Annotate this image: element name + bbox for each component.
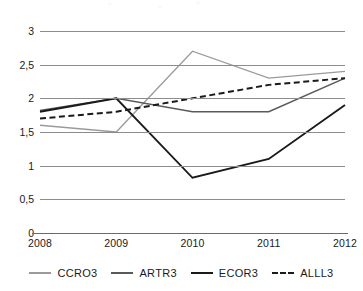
y-axis-tick-label: 2,5 (4, 60, 34, 70)
legend-swatch-solid-line-icon (29, 272, 51, 274)
legend-label: CCRO3 (57, 267, 97, 279)
gridline (40, 31, 345, 32)
chart-legend: CCRO3ARTR3ECOR3ALLL3 (0, 262, 363, 284)
legend-item-artr3[interactable]: ARTR3 (111, 267, 176, 279)
line-chart: 00,511,522,53 20082009201020112012 CCRO3… (0, 0, 363, 291)
x-axis: 20082009201020112012 (40, 237, 345, 253)
legend-swatch-dashed-line-icon (272, 272, 294, 274)
series-line-ccro3 (40, 51, 345, 132)
gridline (40, 65, 345, 66)
y-axis-tick-label: 1 (4, 161, 34, 171)
legend-swatch-solid-line-icon (191, 272, 213, 274)
x-axis-tick-label: 2012 (315, 237, 363, 249)
gridline (40, 98, 345, 99)
scan-artifact (0, 0, 363, 14)
x-axis-tick-label: 2010 (163, 237, 223, 249)
legend-label: ALLL3 (300, 267, 333, 279)
legend-label: ECOR3 (219, 267, 258, 279)
x-axis-tick-label: 2008 (10, 237, 70, 249)
legend-swatch-solid-line-icon (111, 272, 133, 274)
x-axis-line (32, 233, 348, 234)
x-axis-tick-label: 2011 (239, 237, 299, 249)
y-axis-tick-label: 2 (4, 93, 34, 103)
gridline (40, 166, 345, 167)
gridline (40, 199, 345, 200)
y-axis-tick-label: 3 (4, 26, 34, 36)
legend-item-ccro3[interactable]: CCRO3 (29, 267, 97, 279)
legend-item-alll3[interactable]: ALLL3 (272, 267, 333, 279)
gridline (40, 132, 345, 133)
legend-item-ecor3[interactable]: ECOR3 (191, 267, 258, 279)
series-line-artr3 (40, 78, 345, 112)
x-axis-tick-label: 2009 (86, 237, 146, 249)
y-axis-tick-label: 0,5 (4, 194, 34, 204)
y-axis-tick-label: 1,5 (4, 127, 34, 137)
plot-area (40, 31, 345, 233)
legend-label: ARTR3 (139, 267, 176, 279)
